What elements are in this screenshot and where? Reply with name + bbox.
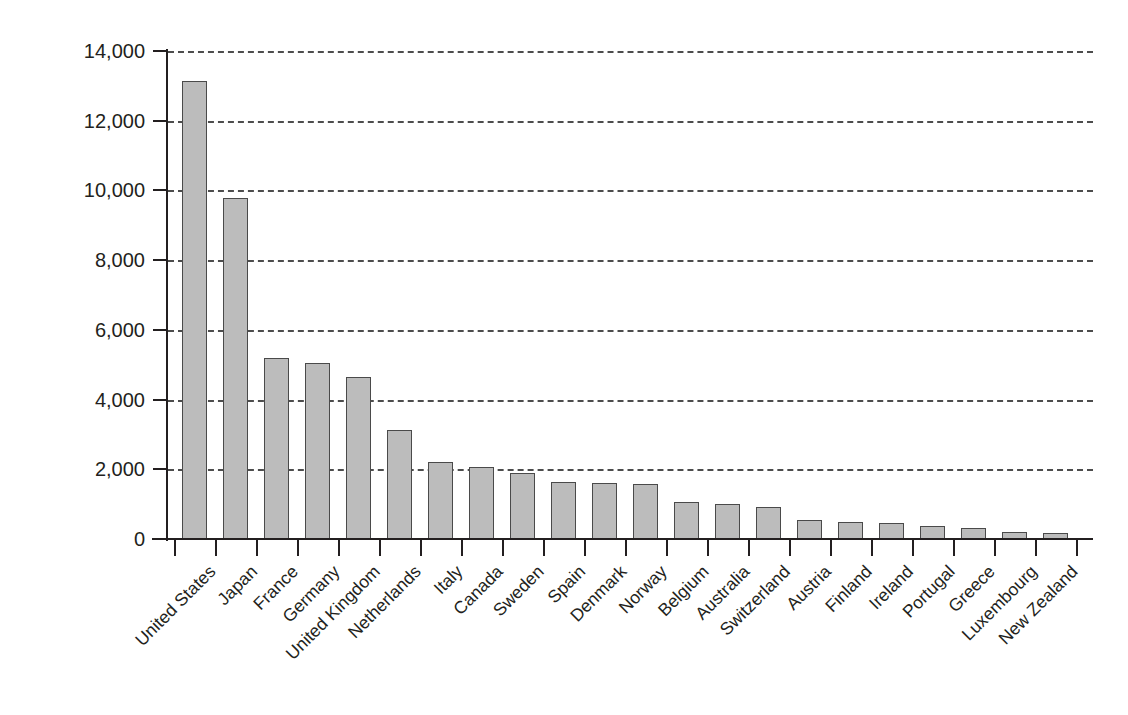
y-tick-label: 0 bbox=[35, 529, 145, 549]
y-tick-label: 12,000 bbox=[35, 111, 145, 131]
bar bbox=[756, 507, 781, 539]
bar bbox=[674, 502, 699, 539]
y-tick-label-container: 2,000 bbox=[30, 459, 145, 479]
y-tick-label: 6,000 bbox=[35, 320, 145, 340]
y-tick-label-container: 6,000 bbox=[30, 320, 145, 340]
bar bbox=[469, 467, 494, 539]
x-tick-mark bbox=[215, 540, 217, 556]
y-tick-label: 4,000 bbox=[35, 390, 145, 410]
bar bbox=[592, 483, 617, 539]
x-tick-mark bbox=[174, 540, 176, 556]
x-tick-mark bbox=[256, 540, 258, 556]
gridline bbox=[168, 51, 1093, 53]
x-tick-mark bbox=[461, 540, 463, 556]
x-tick-mark bbox=[379, 540, 381, 556]
x-tick-mark bbox=[1076, 540, 1078, 556]
x-tick-mark bbox=[666, 540, 668, 556]
y-tick-label-container: 0 bbox=[30, 529, 145, 549]
x-tick-mark bbox=[707, 540, 709, 556]
x-tick-mark bbox=[625, 540, 627, 556]
x-tick-mark bbox=[420, 540, 422, 556]
x-tick-mark bbox=[297, 540, 299, 556]
bar bbox=[305, 363, 330, 539]
x-tick-mark bbox=[953, 540, 955, 556]
y-tick-label: 14,000 bbox=[35, 41, 145, 61]
x-axis-line bbox=[152, 538, 1093, 540]
y-tick-label: 10,000 bbox=[35, 180, 145, 200]
y-tick-label-container: 4,000 bbox=[30, 390, 145, 410]
bar bbox=[797, 520, 822, 539]
x-tick-mark bbox=[543, 540, 545, 556]
plot-area bbox=[168, 51, 1093, 539]
bar bbox=[551, 482, 576, 539]
bar bbox=[223, 198, 248, 539]
x-tick-mark bbox=[830, 540, 832, 556]
bar bbox=[428, 462, 453, 539]
bar bbox=[264, 358, 289, 539]
y-tick-label-container: 10,000 bbox=[30, 180, 145, 200]
y-tick-label-container: 8,000 bbox=[30, 250, 145, 270]
x-tick-mark bbox=[789, 540, 791, 556]
x-tick-mark bbox=[912, 540, 914, 556]
gridline bbox=[168, 260, 1093, 262]
x-tick-mark bbox=[338, 540, 340, 556]
gridline bbox=[168, 330, 1093, 332]
x-tick-mark bbox=[748, 540, 750, 556]
x-tick-mark bbox=[871, 540, 873, 556]
bar bbox=[387, 430, 412, 539]
x-tick-mark bbox=[584, 540, 586, 556]
bar bbox=[510, 473, 535, 539]
x-tick-label: United States bbox=[132, 562, 220, 650]
x-tick-mark bbox=[502, 540, 504, 556]
gridline bbox=[168, 121, 1093, 123]
bar bbox=[182, 81, 207, 539]
bar bbox=[838, 522, 863, 539]
bar bbox=[879, 523, 904, 539]
bar bbox=[715, 504, 740, 539]
y-tick-label: 8,000 bbox=[35, 250, 145, 270]
y-tick-label-container: 12,000 bbox=[30, 111, 145, 131]
gridline bbox=[168, 190, 1093, 192]
bar bbox=[633, 484, 658, 539]
x-tick-mark bbox=[994, 540, 996, 556]
y-tick-label-container: 14,000 bbox=[30, 41, 145, 61]
y-tick-label: 2,000 bbox=[35, 459, 145, 479]
bar-chart: Million US Dollars (2001) 02,0004,0006,0… bbox=[0, 0, 1128, 715]
x-tick-mark bbox=[1035, 540, 1037, 556]
bar bbox=[346, 377, 371, 539]
